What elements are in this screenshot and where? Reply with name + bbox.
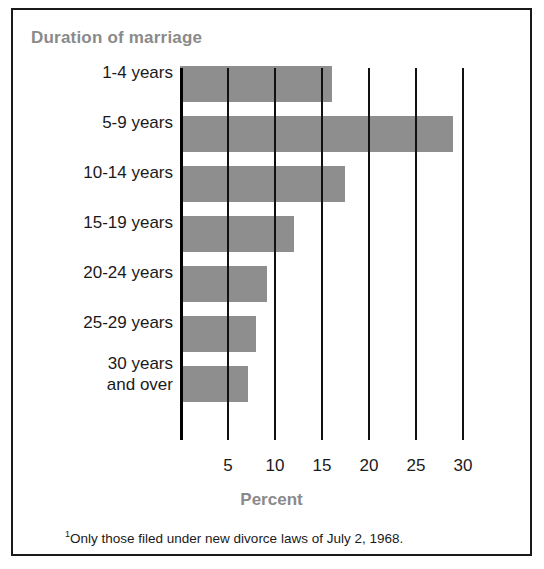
gridline-30 [462,68,464,440]
xtick-label-15: 15 [313,456,332,476]
plot-area: 1-4 years 5-9 years 10-14 years 15-19 ye… [13,58,530,438]
xtick-label-25: 25 [407,456,426,476]
category-label-2: 5-9 years [102,112,173,133]
bar-3 [180,166,345,202]
xtick-label-30: 30 [454,456,473,476]
footnote-text: Only those filed under new divorce laws … [70,531,403,546]
category-label-1: 1-4 years [102,62,173,83]
footnote: 1Only those filed under new divorce laws… [65,529,403,546]
category-label-4: 15-19 years [83,212,173,233]
bar-5 [180,266,267,302]
category-label-7: 30 years and over [107,353,173,395]
x-axis-title: Percent [13,490,530,510]
bar-6 [180,316,256,352]
chart-frame: Duration of marriage 1-4 years 5-9 years… [11,8,532,556]
gridline-10 [274,68,276,440]
xtick-label-10: 10 [266,456,285,476]
gridline-5 [227,68,229,440]
category-label-5: 20-24 years [83,262,173,283]
gridline-25 [415,68,417,440]
y-axis-line [180,68,183,440]
xtick-label-20: 20 [360,456,379,476]
bar-2 [180,116,453,152]
xtick-label-5: 5 [223,456,232,476]
bar-4 [180,216,294,252]
chart-title: Duration of marriage [31,28,202,48]
gridline-15 [321,68,323,440]
bar-1 [180,66,332,102]
gridline-20 [368,68,370,440]
bar-7 [180,366,248,402]
category-label-6: 25-29 years [83,312,173,333]
category-label-3: 10-14 years [83,162,173,183]
